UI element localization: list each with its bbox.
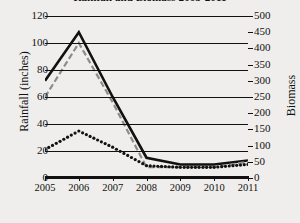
x-axis-tick-mark <box>45 176 46 181</box>
y-axis-right-tick-label: 150 <box>254 123 271 134</box>
data-point-marker <box>194 166 197 169</box>
y-axis-right-tick-mark <box>248 32 253 33</box>
gridline <box>45 124 248 125</box>
data-point-marker <box>198 166 201 169</box>
data-point-marker <box>220 165 223 168</box>
data-point-marker <box>96 138 99 141</box>
y-axis-right-tick-mark <box>248 65 253 66</box>
y-axis-right-tick-mark <box>248 48 253 49</box>
data-point-marker <box>137 160 140 163</box>
gridline <box>45 16 248 17</box>
y-axis-right-tick-mark <box>248 81 253 82</box>
chart-figure: Rainfall and Biomass 2005-2011 Rainfall … <box>0 0 300 223</box>
data-point-marker <box>216 165 219 168</box>
x-axis-tick-label: 2007 <box>97 182 129 193</box>
data-point-marker <box>243 163 246 166</box>
data-point-marker <box>201 166 204 169</box>
data-point-marker <box>160 165 163 168</box>
data-point-marker <box>182 166 185 169</box>
y-axis-right-tick-mark <box>248 16 253 17</box>
data-point-marker <box>92 137 95 140</box>
y-axis-right-tick-mark <box>248 162 253 163</box>
y-axis-right-tick-mark <box>248 129 253 130</box>
data-point-marker <box>145 164 148 167</box>
data-point-marker <box>81 131 84 134</box>
x-axis-tick-label: 2008 <box>131 182 163 193</box>
data-point-marker <box>179 166 182 169</box>
data-point-marker <box>228 164 231 167</box>
data-point-marker <box>209 166 212 169</box>
data-point-marker <box>231 164 234 167</box>
y-axis-left-tick-label: 40 <box>37 118 48 129</box>
gridline <box>45 151 248 152</box>
x-axis-tick-label: 2010 <box>198 182 230 193</box>
data-point-marker <box>134 158 137 161</box>
y-axis-left-tick-label: 120 <box>32 10 49 21</box>
data-point-marker <box>213 166 216 169</box>
y-axis-right-tick-mark <box>248 146 253 147</box>
data-point-marker <box>66 136 69 139</box>
y-axis-left-tick-label: 60 <box>37 91 48 102</box>
x-axis-tick-label: 2009 <box>164 182 196 193</box>
data-point-marker <box>171 165 174 168</box>
data-point-marker <box>156 165 159 168</box>
data-point-marker <box>190 166 193 169</box>
data-point-marker <box>205 166 208 169</box>
y-axis-right-tick-label: 250 <box>254 91 271 102</box>
data-point-marker <box>55 142 58 145</box>
data-point-marker <box>122 152 125 155</box>
x-axis-tick-mark <box>147 176 148 181</box>
x-axis-tick-mark <box>214 176 215 181</box>
data-point-marker <box>175 166 178 169</box>
data-point-marker <box>73 131 76 134</box>
y-axis-right-tick-label: 500 <box>254 10 271 21</box>
x-axis-tick-mark <box>113 176 114 181</box>
gridline <box>45 43 248 44</box>
data-point-marker <box>107 144 110 147</box>
data-point-marker <box>167 165 170 168</box>
y-axis-right-tick-label: 50 <box>254 156 265 167</box>
data-point-marker <box>62 138 65 141</box>
data-point-marker <box>186 166 189 169</box>
series-line-rainfall-dashed <box>45 43 248 167</box>
y-axis-right-tick-mark <box>248 113 253 114</box>
gridline <box>45 97 248 98</box>
x-axis-tick-mark <box>248 176 249 181</box>
data-point-marker <box>149 164 152 167</box>
x-axis-tick-mark <box>180 176 181 181</box>
y-axis-left-tick-label: 20 <box>37 145 48 156</box>
y-axis-right-tick-mark <box>248 97 253 98</box>
series-line-rainfall-solid <box>45 32 248 164</box>
data-point-marker <box>111 146 114 149</box>
data-point-marker <box>77 129 80 132</box>
data-point-marker <box>152 164 155 167</box>
data-point-marker <box>164 165 167 168</box>
data-point-marker <box>89 135 92 138</box>
data-point-marker <box>239 163 242 166</box>
data-point-marker <box>85 133 88 136</box>
x-axis-tick-mark <box>79 176 80 181</box>
data-point-marker <box>58 140 61 143</box>
y-axis-right-title: Biomass <box>284 41 299 151</box>
data-point-marker <box>130 156 133 159</box>
y-axis-right-tick-label: 100 <box>254 140 271 151</box>
data-point-marker <box>100 140 103 143</box>
data-point-marker <box>246 163 248 166</box>
gridline <box>45 70 248 71</box>
x-axis-tick-label: 2005 <box>29 182 61 193</box>
x-axis-tick-label: 2011 <box>232 182 264 193</box>
y-axis-right-tick-label: 450 <box>254 26 271 37</box>
data-point-marker <box>141 162 144 165</box>
y-axis-left-title: Rainfall (inches) <box>17 22 32 162</box>
data-point-marker <box>51 144 54 147</box>
y-axis-right-tick-label: 350 <box>254 59 271 70</box>
y-axis-right-tick-label: 300 <box>254 75 271 86</box>
data-point-marker <box>126 154 129 157</box>
y-axis-right-tick-label: 400 <box>254 42 271 53</box>
data-point-marker <box>70 134 73 137</box>
chart-title: Rainfall and Biomass 2005-2011 <box>0 0 300 3</box>
data-point-marker <box>104 142 107 145</box>
y-axis-right-tick-label: 200 <box>254 107 271 118</box>
data-point-marker <box>224 165 227 168</box>
y-axis-left-tick-label: 100 <box>32 37 49 48</box>
